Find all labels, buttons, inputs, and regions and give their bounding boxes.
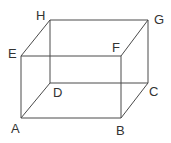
vertex-label-B: B <box>116 123 125 138</box>
edge-HE <box>21 20 50 56</box>
vertex-label-F: F <box>112 40 120 55</box>
vertex-label-D: D <box>53 85 62 100</box>
vertex-label-A: A <box>11 121 20 136</box>
vertex-label-G: G <box>154 12 164 27</box>
cuboid-diagram: H G E F D C A B <box>0 0 171 143</box>
edge-DA <box>21 83 50 118</box>
edge-FG <box>121 20 148 56</box>
edge-BC <box>121 83 148 118</box>
vertex-label-E: E <box>8 46 17 61</box>
vertex-label-H: H <box>36 8 45 23</box>
vertex-label-C: C <box>149 84 158 99</box>
